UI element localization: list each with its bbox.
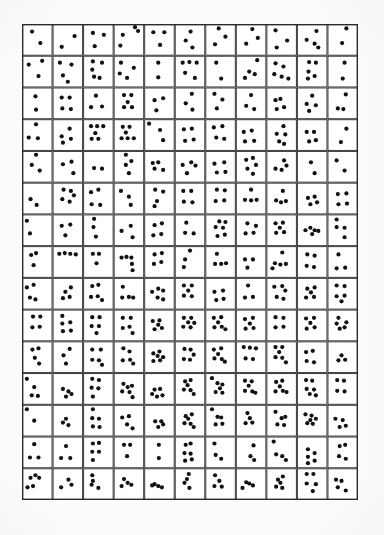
dot xyxy=(59,485,63,489)
dot-grid-svg xyxy=(22,24,358,500)
dot xyxy=(96,294,100,298)
grid-cell xyxy=(84,120,114,151)
dot xyxy=(40,59,44,63)
dot xyxy=(60,314,64,318)
dot xyxy=(224,261,228,265)
dot xyxy=(150,392,154,396)
dot xyxy=(69,160,73,164)
dot xyxy=(336,358,340,362)
dot xyxy=(30,325,34,329)
dot xyxy=(185,383,189,387)
dot xyxy=(182,200,186,204)
grid-cell xyxy=(23,247,53,278)
dot xyxy=(273,221,277,225)
dot xyxy=(278,262,282,266)
grid-cell xyxy=(267,25,297,56)
grid-cells xyxy=(23,25,358,500)
dot xyxy=(71,171,75,175)
dot xyxy=(283,288,287,292)
dot xyxy=(195,61,199,65)
dot xyxy=(308,202,312,206)
dot xyxy=(342,284,346,288)
dot xyxy=(94,261,98,265)
grid-cell xyxy=(328,437,358,468)
grid-cell xyxy=(267,405,297,436)
dot xyxy=(338,425,342,429)
dot xyxy=(129,203,133,207)
grid-cell xyxy=(236,405,266,436)
dot xyxy=(38,169,42,173)
dot xyxy=(92,217,96,221)
grid-cell xyxy=(267,215,297,246)
dot xyxy=(32,385,36,389)
dot xyxy=(187,472,191,476)
dot xyxy=(249,198,253,202)
dot xyxy=(275,295,279,299)
dot xyxy=(220,124,224,128)
dot xyxy=(223,233,227,237)
dot xyxy=(219,457,223,461)
grid-cell xyxy=(23,183,53,214)
dot xyxy=(282,142,286,146)
grid-cell xyxy=(206,151,236,182)
dot xyxy=(303,228,307,232)
dot xyxy=(335,294,339,298)
dot xyxy=(311,349,315,353)
dot xyxy=(310,232,314,236)
dot xyxy=(344,92,348,96)
dot xyxy=(213,42,217,46)
dot xyxy=(244,158,248,162)
dot xyxy=(150,290,154,294)
grid-cell xyxy=(53,120,83,151)
dot xyxy=(186,320,190,324)
dot xyxy=(121,346,125,350)
dot xyxy=(90,450,94,454)
dot xyxy=(122,93,126,97)
grid-cell xyxy=(297,183,327,214)
dot xyxy=(210,376,214,380)
dot xyxy=(339,353,343,357)
grid-cell xyxy=(175,405,205,436)
dot xyxy=(119,136,123,140)
dot xyxy=(304,350,308,354)
dot xyxy=(192,231,196,235)
dot xyxy=(304,378,308,382)
dot xyxy=(312,265,316,269)
dot xyxy=(36,455,40,459)
dot xyxy=(31,314,35,318)
dot xyxy=(69,107,73,111)
dot-grid-sheet xyxy=(0,0,384,535)
dot xyxy=(30,30,34,34)
dot xyxy=(282,423,286,427)
dot xyxy=(156,425,160,429)
dot xyxy=(272,440,276,444)
dot xyxy=(342,61,346,65)
dot xyxy=(181,189,185,193)
dot xyxy=(307,139,311,143)
dot xyxy=(219,262,223,266)
dot xyxy=(182,127,186,131)
dot xyxy=(90,473,94,477)
dot xyxy=(256,36,260,40)
dot xyxy=(90,386,94,390)
dot xyxy=(182,357,186,361)
grid-cell xyxy=(328,183,358,214)
grid-cell xyxy=(297,215,327,246)
dot xyxy=(186,288,190,292)
dot xyxy=(127,295,131,299)
dot xyxy=(335,158,339,162)
dot xyxy=(305,264,309,268)
dot xyxy=(280,284,284,288)
dot xyxy=(96,486,100,490)
dot xyxy=(305,359,309,363)
dot xyxy=(308,226,312,230)
dot xyxy=(336,106,340,110)
dot xyxy=(25,285,29,289)
dot xyxy=(182,451,186,455)
dot xyxy=(122,443,126,447)
grid-cell xyxy=(114,278,144,309)
dot xyxy=(58,61,62,65)
dot xyxy=(160,251,164,255)
dot xyxy=(160,221,164,225)
dot xyxy=(155,394,159,398)
